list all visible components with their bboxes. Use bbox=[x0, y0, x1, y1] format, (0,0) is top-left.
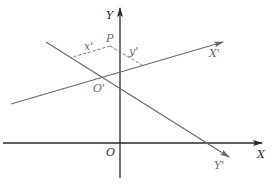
y-axis-label: Y bbox=[106, 9, 115, 22]
point-p-label: P bbox=[105, 32, 114, 45]
rotated-origin-label: O' bbox=[93, 82, 105, 95]
x-prime-axis bbox=[11, 42, 223, 104]
coordinate-diagram: Y X O P x' y' X' Y' O' bbox=[0, 0, 273, 189]
origin-label: O bbox=[106, 146, 115, 159]
y-prime-axis bbox=[46, 42, 229, 157]
y-prime-coord-label: y' bbox=[128, 45, 138, 58]
x-prime-axis-label: X' bbox=[208, 47, 220, 60]
x-prime-coord-label: x' bbox=[84, 40, 93, 53]
x-axis-label: X bbox=[256, 148, 266, 161]
y-prime-axis-label: Y' bbox=[214, 159, 224, 172]
